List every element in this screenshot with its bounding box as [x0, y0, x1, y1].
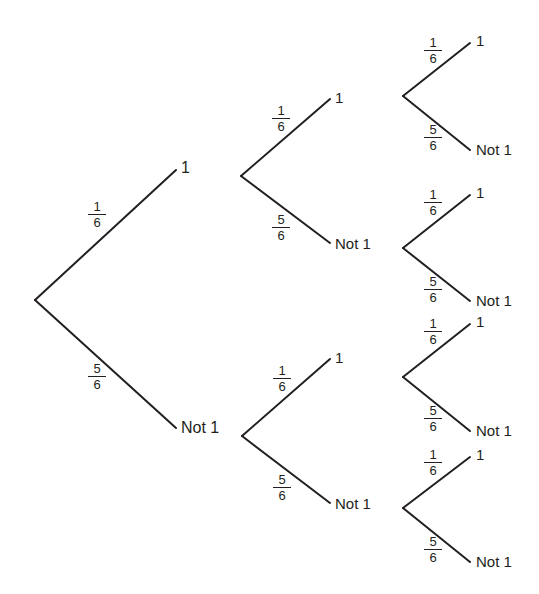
probability-fraction: 16	[424, 36, 442, 65]
probability-fraction: 56	[272, 213, 290, 242]
outcome-label: Not 1	[335, 236, 371, 251]
probability-fraction: 16	[88, 200, 106, 229]
outcome-label: 1	[476, 33, 484, 48]
probability-fraction: 16	[424, 317, 442, 346]
fraction-denominator: 6	[424, 550, 442, 564]
probability-tree-diagram: 1Not 11Not 11Not 11Not 11Not 11Not 11Not…	[0, 0, 539, 594]
fraction-numerator: 5	[272, 213, 290, 228]
probability-fraction: 56	[424, 275, 442, 304]
fraction-denominator: 6	[424, 463, 442, 477]
tree-edges-layer	[0, 0, 539, 594]
fraction-numerator: 1	[88, 200, 106, 215]
probability-fraction: 56	[273, 473, 291, 502]
outcome-label: 1	[476, 314, 484, 329]
fraction-numerator: 5	[424, 275, 442, 290]
probability-fraction: 56	[88, 362, 106, 391]
branch-line	[35, 170, 176, 300]
fraction-numerator: 5	[424, 404, 442, 419]
fraction-denominator: 6	[424, 51, 442, 65]
fraction-denominator: 6	[424, 290, 442, 304]
probability-fraction: 56	[424, 404, 442, 433]
probability-fraction: 56	[424, 123, 442, 152]
outcome-label: 1	[476, 447, 484, 462]
outcome-label: Not 1	[181, 420, 219, 436]
fraction-denominator: 6	[424, 203, 442, 217]
fraction-denominator: 6	[272, 119, 290, 133]
branch-lines	[35, 43, 470, 562]
fraction-numerator: 5	[424, 123, 442, 138]
fraction-denominator: 6	[424, 419, 442, 433]
fraction-numerator: 5	[273, 473, 291, 488]
outcome-label: Not 1	[476, 423, 512, 438]
fraction-numerator: 5	[88, 362, 106, 377]
fraction-numerator: 1	[424, 317, 442, 332]
fraction-denominator: 6	[424, 138, 442, 152]
outcome-label: Not 1	[476, 293, 512, 308]
fraction-numerator: 1	[424, 448, 442, 463]
fraction-numerator: 5	[424, 535, 442, 550]
fraction-denominator: 6	[272, 228, 290, 242]
outcome-label: 1	[335, 90, 343, 105]
probability-fraction: 16	[273, 364, 291, 393]
fraction-denominator: 6	[424, 332, 442, 346]
fraction-denominator: 6	[88, 377, 106, 391]
fraction-denominator: 6	[273, 488, 291, 502]
outcome-label: 1	[476, 185, 484, 200]
probability-fraction: 16	[272, 104, 290, 133]
outcome-label: Not 1	[335, 496, 371, 511]
fraction-numerator: 1	[424, 36, 442, 51]
fraction-numerator: 1	[272, 104, 290, 119]
fraction-denominator: 6	[88, 215, 106, 229]
fraction-denominator: 6	[273, 379, 291, 393]
probability-fraction: 16	[424, 448, 442, 477]
outcome-label: Not 1	[476, 554, 512, 569]
outcome-label: 1	[181, 160, 190, 176]
probability-fraction: 56	[424, 535, 442, 564]
probability-fraction: 16	[424, 188, 442, 217]
outcome-label: Not 1	[476, 142, 512, 157]
fraction-numerator: 1	[273, 364, 291, 379]
fraction-numerator: 1	[424, 188, 442, 203]
outcome-label: 1	[335, 350, 343, 365]
